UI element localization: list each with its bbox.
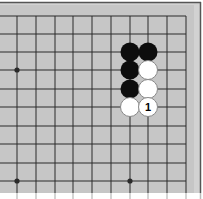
black-stone [121,80,140,99]
go-board: 1 [0,0,203,199]
board-surface [0,5,194,193]
black-stone [139,43,158,62]
white-stone [121,98,140,117]
star-point-icon [14,178,19,183]
white-stone [139,61,158,80]
black-stone [121,43,140,62]
star-point-icon [14,67,19,72]
white-stone [139,80,158,99]
board-bottom-fade [0,193,203,199]
black-stone [121,61,140,80]
star-point-icon [127,178,132,183]
move-number-label: 1 [145,101,151,113]
board-background [0,2,201,199]
